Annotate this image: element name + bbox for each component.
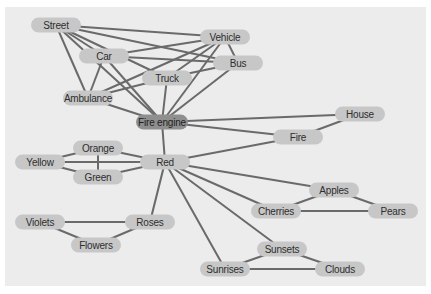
node-bus: Bus <box>213 56 263 71</box>
node-house: House <box>335 107 385 122</box>
node-ambulance: Ambulance <box>63 91 113 106</box>
node-street: Street <box>31 18 81 33</box>
node-truck: Truck <box>142 71 192 86</box>
node-apples: Apples <box>309 183 359 198</box>
node-pears: Pears <box>368 204 418 219</box>
node-sunrises: Sunrises <box>200 262 250 277</box>
node-green: Green <box>73 170 123 185</box>
node-roses: Roses <box>125 215 175 230</box>
node-sunsets: Sunsets <box>257 242 307 257</box>
edge-red-roses <box>150 162 165 222</box>
node-orange: Orange <box>73 141 123 156</box>
node-cherries: Cherries <box>251 204 301 219</box>
node-yellow: Yellow <box>15 155 65 170</box>
node-red: Red <box>140 155 190 170</box>
node-vehicle: Vehicle <box>200 30 250 45</box>
node-fire: Fire <box>273 130 323 145</box>
node-fire-engine: Fire engine <box>136 115 188 130</box>
node-flowers: Flowers <box>71 238 121 253</box>
node-clouds: Clouds <box>315 262 365 277</box>
edge-fire_engine-house <box>162 114 360 122</box>
edge-red-sunrises <box>165 162 225 269</box>
edge-red-apples <box>165 162 334 190</box>
node-car: Car <box>79 49 129 64</box>
node-violets: Violets <box>15 215 65 230</box>
